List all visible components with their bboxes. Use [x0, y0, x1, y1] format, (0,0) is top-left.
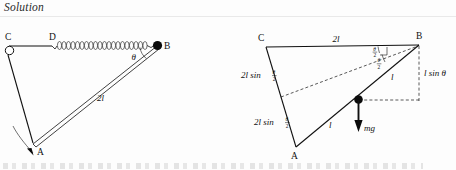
- rod-ab-cap-a: [33, 144, 36, 147]
- label-upper-left-denominator: 2: [273, 76, 276, 82]
- label-lower-left-denominator: 2: [286, 123, 289, 129]
- label-upper-left-prefix: 2l sin: [241, 70, 261, 80]
- weight-arrowhead: [354, 120, 362, 132]
- angle-lower-denominator: 2: [378, 64, 381, 70]
- label-vertex-c: C: [258, 33, 264, 43]
- angle-upper-denominator: 2: [373, 52, 376, 58]
- label-point-d: D: [49, 32, 56, 42]
- label-top-side: 2l: [332, 34, 340, 44]
- label-weight: mg: [364, 123, 375, 133]
- label-upper-left-side: 2l sin θ 2: [241, 69, 277, 81]
- pivot-circle-c: [5, 46, 13, 54]
- angle-lower-numerator: θ: [377, 57, 380, 63]
- dashed-median: [281, 46, 418, 97]
- label-vertical-drop: l sin θ: [424, 68, 447, 78]
- page-canvas: Solution: [0, 0, 456, 170]
- label-upper-left-numerator: θ: [273, 69, 276, 75]
- label-theta: θ: [132, 52, 137, 62]
- angle-label-upper: θ 2: [373, 46, 378, 59]
- rod-ab-edge-top: [33, 46, 157, 144]
- angle-upper-numerator: θ: [373, 46, 376, 52]
- member-ca: [8, 55, 33, 143]
- label-vertex-b: B: [416, 31, 422, 41]
- label-point-c: C: [5, 32, 11, 42]
- label-lower-left-side: 2l sin θ 2: [254, 116, 290, 128]
- spring-hook-left: [52, 46, 57, 49]
- coil-spring: [57, 42, 147, 50]
- footer-cropped-text: [3, 163, 423, 169]
- label-lower-left-numerator: θ: [286, 116, 289, 122]
- label-segment-upper: l: [391, 72, 394, 82]
- angle-arc-upper: [378, 47, 380, 54]
- motion-arrowhead: [27, 148, 34, 156]
- side-cb: [266, 45, 419, 47]
- left-figure: θ 2l C D B A: [0, 0, 228, 170]
- right-figure: θ 2 θ 2 mg 2l l sin θ 2l sin θ 2 2l sin: [228, 0, 456, 170]
- label-segment-lower: l: [329, 120, 332, 130]
- right-angle-mark: [380, 47, 387, 55]
- label-vertex-a: A: [291, 151, 298, 161]
- ball-b: [153, 41, 162, 50]
- label-rod-length: 2l: [97, 93, 105, 103]
- angle-label-lower: θ 2: [377, 57, 382, 70]
- label-point-a: A: [37, 147, 44, 157]
- label-lower-left-prefix: 2l sin: [254, 117, 274, 127]
- label-point-b: B: [164, 41, 170, 51]
